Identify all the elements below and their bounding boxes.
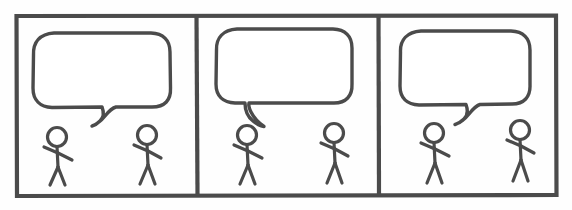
panel-divider-2 [379,16,380,194]
panel-1-speech-bubble [33,33,171,126]
panel-2-figure-left [234,126,262,185]
panel-3-speech-bubble [400,31,530,125]
panel-3-figure-left [421,124,449,184]
panel-divider-1 [197,17,198,194]
panel-2-figure-right [321,124,348,184]
panel-1-figure-left [44,128,72,186]
panel-2 [216,29,352,184]
comic-strip-illustration [0,0,572,210]
panel-1-figure-right [134,126,161,185]
panel-3 [400,31,534,183]
panel-2-speech-bubble [216,29,352,127]
comic-strip-canvas: Three panel stick figure conversation co… [0,0,572,210]
panel-3-figure-right [507,121,534,182]
panel-1 [33,33,171,185]
